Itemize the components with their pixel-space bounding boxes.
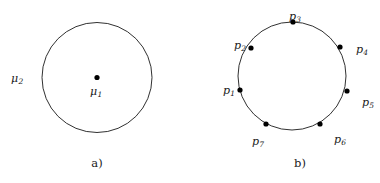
- center-point-dot: [94, 75, 99, 80]
- point-dot-p5: [344, 88, 349, 93]
- label-mu-2-subscript: 2: [18, 77, 23, 86]
- point-dot-p6: [317, 121, 322, 126]
- panel-a: μ1 μ2 a): [0, 0, 190, 183]
- caption-panel-b: b): [294, 156, 306, 170]
- point-dot-p4: [337, 44, 342, 49]
- point-dot-p1: [237, 87, 242, 92]
- panel-b-drawing: [190, 0, 380, 183]
- boundary-point-dots: [237, 19, 349, 126]
- label-p5-symbol: p: [362, 96, 369, 109]
- label-p2-subscript: 2: [241, 44, 246, 53]
- label-p1-subscript: 1: [230, 89, 235, 98]
- label-mu-1-subscript: 1: [97, 90, 102, 99]
- label-p5-subscript: 5: [369, 101, 374, 110]
- label-p1-symbol: p: [223, 84, 230, 97]
- label-p4-symbol: p: [356, 43, 363, 56]
- label-mu-1: μ1: [90, 86, 102, 97]
- label-p3: p3: [289, 11, 301, 22]
- label-p2: p2: [234, 40, 246, 51]
- label-p5: p5: [362, 97, 374, 108]
- label-p7-symbol: p: [252, 135, 259, 148]
- label-mu-2: μ2: [11, 73, 23, 84]
- label-p3-symbol: p: [289, 10, 296, 23]
- label-p6-symbol: p: [334, 133, 341, 146]
- label-p7: p7: [252, 136, 264, 147]
- caption-panel-a: a): [91, 156, 102, 170]
- label-p7-subscript: 7: [259, 140, 264, 149]
- label-p4-subscript: 4: [363, 48, 368, 57]
- label-p2-symbol: p: [234, 39, 241, 52]
- point-dot-p7: [263, 121, 268, 126]
- panel-b: p1p2p3p4p5p6p7 b): [190, 0, 380, 183]
- label-p6-subscript: 6: [341, 138, 346, 147]
- label-p4: p4: [356, 44, 368, 55]
- figure-root: μ1 μ2 a) p1p2p3p4p5p6p7 b): [0, 0, 380, 183]
- sampled-circle-boundary: [238, 22, 346, 130]
- point-dot-p2: [248, 45, 253, 50]
- label-p6: p6: [334, 134, 346, 145]
- label-p3-subscript: 3: [296, 15, 301, 24]
- label-p1: p1: [223, 85, 235, 96]
